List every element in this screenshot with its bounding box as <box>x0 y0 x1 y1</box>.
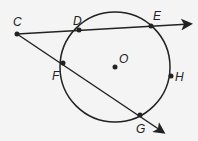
label-f: F <box>52 69 60 83</box>
label-d: D <box>73 14 82 28</box>
secant-c-d-e <box>17 24 190 34</box>
label-g: G <box>136 122 145 136</box>
secant-c-f-g <box>17 34 163 132</box>
point-g <box>138 113 143 118</box>
label-c: C <box>13 15 22 29</box>
point-c <box>15 32 20 37</box>
secant-diagram: C D E F G H O <box>0 0 198 141</box>
point-e <box>149 24 154 29</box>
label-e: E <box>153 9 162 23</box>
point-d <box>77 28 82 33</box>
point-o <box>113 65 118 70</box>
label-o: O <box>119 52 128 66</box>
labels: C D E F G H O <box>13 9 184 136</box>
points <box>15 24 174 118</box>
point-h <box>169 74 174 79</box>
point-f <box>61 61 66 66</box>
label-h: H <box>175 70 184 84</box>
